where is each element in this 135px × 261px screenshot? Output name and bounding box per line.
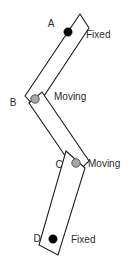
vertex-label-c: C xyxy=(55,159,62,170)
joint-a-fixed-pivot xyxy=(64,28,72,36)
joint-c-moving-pivot xyxy=(72,159,80,167)
annotation-moving-upper: Moving xyxy=(54,91,86,102)
joint-b-moving-pivot xyxy=(31,95,39,103)
annotation-fixed-bottom: Fixed xyxy=(71,234,95,245)
vertex-label-a: A xyxy=(48,18,55,29)
vertex-label-b: B xyxy=(10,97,17,108)
annotation-moving-lower: Moving xyxy=(88,158,120,169)
joint-d-fixed-pivot xyxy=(49,235,57,243)
annotation-fixed-top: Fixed xyxy=(86,29,110,40)
vertex-label-d: D xyxy=(33,233,40,244)
four-bar-linkage-diagram: A B C D Fixed Moving Moving Fixed xyxy=(0,0,135,261)
linkage-canvas: A B C D Fixed Moving Moving Fixed xyxy=(0,0,135,261)
